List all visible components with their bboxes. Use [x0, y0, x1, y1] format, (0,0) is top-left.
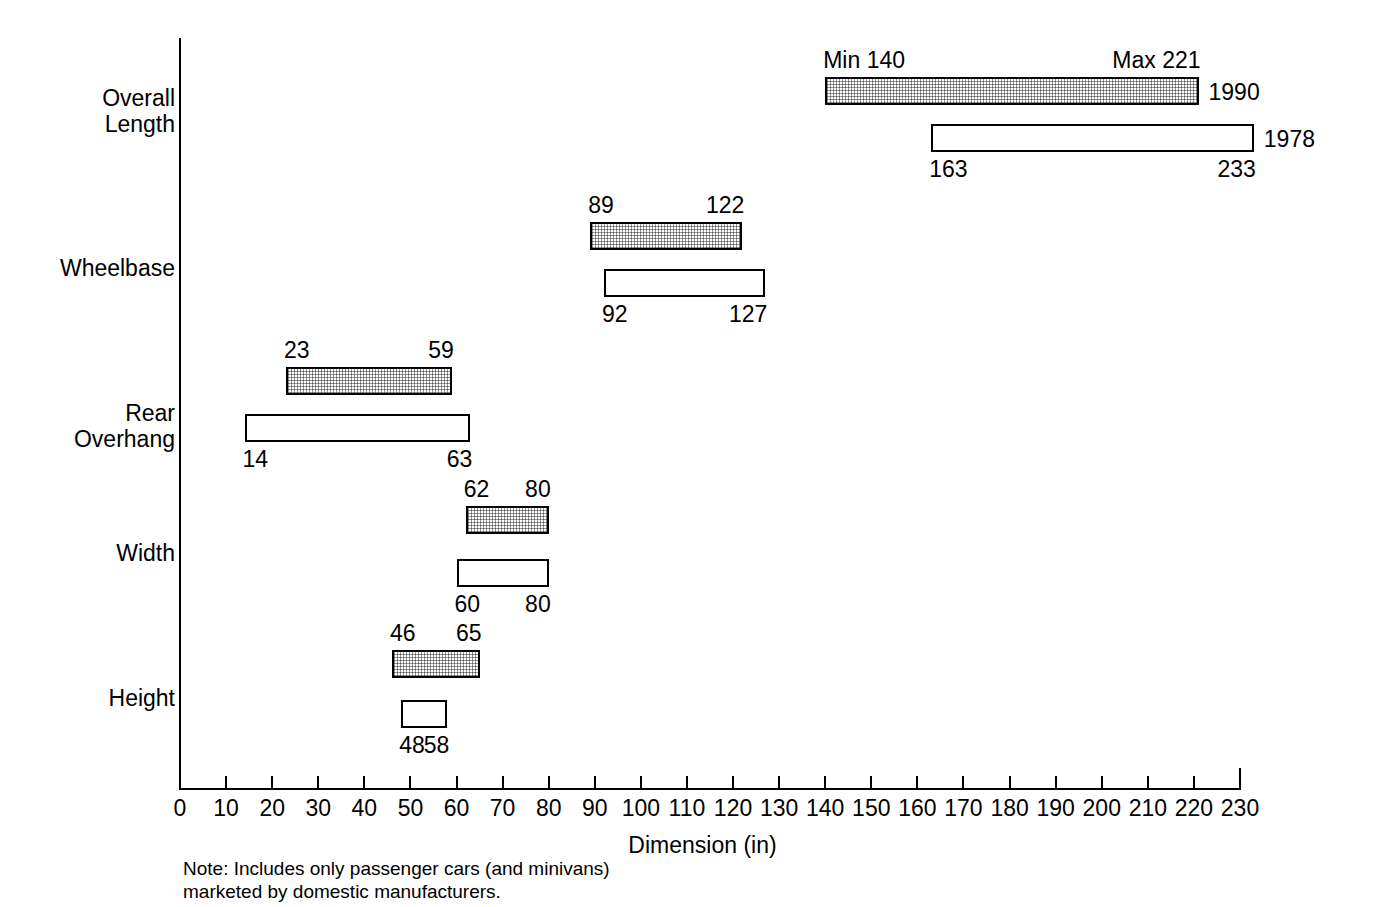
value-label-max-1990-height: 65	[456, 620, 482, 646]
x-axis-title-text: Dimension (in)	[628, 832, 776, 859]
value-label-min-1978-height: 48	[399, 732, 425, 758]
x-tick-20	[271, 776, 273, 790]
category-label-height: Height	[0, 685, 175, 711]
range-chart: 0102030405060708090100110120130140150160…	[0, 0, 1375, 907]
x-tick-200	[1101, 776, 1103, 790]
bar-1990-width[interactable]	[466, 506, 549, 534]
y-axis-line	[179, 38, 181, 790]
x-tick-label-110: 110	[669, 794, 706, 822]
x-tick-130	[778, 776, 780, 790]
value-label-min-1990-width: 62	[464, 476, 490, 502]
x-tick-10	[225, 776, 227, 790]
x-tick-210	[1147, 776, 1149, 790]
category-label-overall-length: Overall Length	[0, 85, 175, 137]
x-tick-100	[640, 776, 642, 790]
x-tick-40	[363, 776, 365, 790]
x-tick-label-220: 220	[1175, 794, 1213, 822]
bar-1978-overall-length[interactable]	[931, 124, 1254, 152]
bar-1990-wheelbase[interactable]	[590, 222, 742, 250]
x-tick-label-210: 210	[1129, 794, 1167, 822]
x-tick-label-80: 80	[536, 794, 562, 822]
x-tick-60	[456, 776, 458, 790]
value-label-min-1990-rear-overhang: 23	[284, 337, 310, 363]
value-label-max-1978-wheelbase: 127	[729, 301, 767, 327]
x-tick-50	[409, 776, 411, 790]
x-tick-label-40: 40	[352, 794, 378, 822]
x-axis-title: Dimension (in)	[0, 832, 1375, 859]
x-tick-label-130: 130	[760, 794, 798, 822]
x-tick-0	[179, 768, 181, 790]
value-label-max-1990-wheelbase: 122	[706, 192, 744, 218]
value-label-min-1978-width: 60	[455, 591, 481, 617]
x-tick-label-200: 200	[1083, 794, 1121, 822]
x-tick-230	[1239, 768, 1241, 790]
x-tick-150	[870, 776, 872, 790]
x-tick-label-60: 60	[444, 794, 470, 822]
x-tick-label-30: 30	[305, 794, 331, 822]
x-tick-label-70: 70	[490, 794, 516, 822]
x-tick-label-150: 150	[852, 794, 890, 822]
value-label-min-1990-wheelbase: 89	[588, 192, 614, 218]
bar-1990-rear-overhang[interactable]	[286, 367, 452, 395]
x-tick-label-120: 120	[714, 794, 752, 822]
x-tick-90	[594, 776, 596, 790]
series-year-label-1990: 1990	[1209, 78, 1260, 106]
chart-note: Note: Includes only passenger cars (and …	[183, 857, 610, 903]
bar-1990-height[interactable]	[392, 650, 480, 678]
x-axis-line	[179, 788, 1241, 790]
x-tick-label-0: 0	[174, 794, 187, 822]
x-tick-220	[1193, 776, 1195, 790]
x-tick-170	[962, 776, 964, 790]
value-label-min-1978-wheelbase: 92	[602, 301, 628, 327]
x-tick-30	[317, 776, 319, 790]
bar-1978-rear-overhang[interactable]	[245, 414, 471, 442]
value-label-max-1990-rear-overhang: 59	[428, 337, 454, 363]
category-label-width: Width	[0, 540, 175, 566]
value-label-max-1978-rear-overhang: 63	[447, 446, 473, 472]
x-tick-140	[824, 776, 826, 790]
value-label-max-1990-width: 80	[525, 476, 551, 502]
x-tick-110	[686, 776, 688, 790]
series-year-label-1978: 1978	[1264, 125, 1315, 153]
x-tick-label-230: 230	[1221, 794, 1259, 822]
x-tick-label-10: 10	[213, 794, 239, 822]
x-tick-label-100: 100	[622, 794, 660, 822]
x-tick-label-90: 90	[582, 794, 608, 822]
x-tick-70	[502, 776, 504, 790]
value-label-max-1978-overall-length: 233	[1217, 156, 1255, 182]
x-tick-label-140: 140	[806, 794, 844, 822]
bar-1990-overall-length[interactable]	[825, 77, 1198, 105]
x-tick-label-160: 160	[898, 794, 936, 822]
x-tick-label-180: 180	[990, 794, 1028, 822]
x-tick-label-50: 50	[398, 794, 424, 822]
value-label-min-1990-overall-length: Min 140	[823, 47, 905, 73]
x-tick-190	[1055, 776, 1057, 790]
value-label-min-1990-height: 46	[390, 620, 416, 646]
value-label-min-1978-rear-overhang: 14	[243, 446, 269, 472]
x-tick-label-190: 190	[1036, 794, 1074, 822]
bar-1978-width[interactable]	[457, 559, 549, 587]
x-tick-label-170: 170	[944, 794, 982, 822]
category-label-wheelbase: Wheelbase	[0, 255, 175, 281]
value-label-max-1978-width: 80	[525, 591, 551, 617]
category-label-rear-overhang: Rear Overhang	[0, 400, 175, 452]
x-tick-160	[916, 776, 918, 790]
value-label-min-1978-overall-length: 163	[929, 156, 967, 182]
bar-1978-wheelbase[interactable]	[604, 269, 765, 297]
bar-1978-height[interactable]	[401, 700, 447, 728]
x-tick-80	[548, 776, 550, 790]
x-tick-label-20: 20	[259, 794, 285, 822]
value-label-max-1978-height: 58	[424, 732, 450, 758]
x-tick-180	[1009, 776, 1011, 790]
value-label-max-1990-overall-length: Max 221	[1112, 47, 1200, 73]
x-tick-120	[732, 776, 734, 790]
